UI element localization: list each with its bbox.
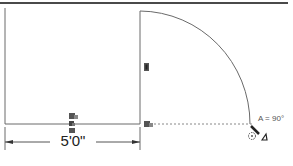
- rotate-cursor-icon: [249, 126, 260, 140]
- top-border-line: [0, 2, 288, 4]
- drawing-canvas[interactable]: [0, 0, 293, 166]
- grip-square-icon[interactable]: [69, 121, 75, 126]
- angle-triangle-icon: [262, 134, 267, 140]
- dimension-label[interactable]: 5'0": [50, 133, 96, 149]
- door-swing-arc[interactable]: [140, 11, 250, 124]
- grip-square-icon[interactable]: [144, 121, 153, 127]
- angle-label: A = 90°: [258, 114, 284, 123]
- dimension-arrow-left: [5, 140, 13, 144]
- dimension-arrow-right: [132, 140, 140, 144]
- grip-square-icon[interactable]: [144, 63, 149, 71]
- grip-square-icon[interactable]: [69, 113, 78, 119]
